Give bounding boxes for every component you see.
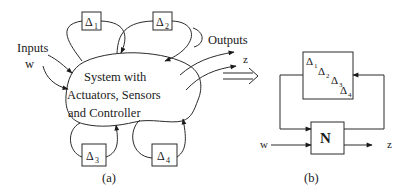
- b-input-w-label: w: [260, 138, 268, 150]
- b-delta4-sub: 4: [348, 91, 352, 99]
- b-output-z-label: z: [387, 138, 392, 150]
- n-to-delta-line: [344, 75, 384, 129]
- delta2-symbol: Δ: [156, 15, 164, 29]
- delta1-block: Δ 1: [82, 12, 101, 31]
- output-arrow-2: [186, 66, 236, 90]
- plant-label: N: [320, 130, 331, 146]
- b-delta2-symbol: Δ: [318, 65, 325, 77]
- transform-arrow: [223, 68, 258, 84]
- outputs-label: Outputs: [208, 33, 248, 47]
- delta1-output-line: [101, 21, 125, 53]
- system-label-line1: System with: [84, 70, 147, 84]
- delta2-right-loop: [193, 28, 202, 47]
- delta3-input-line: [70, 123, 82, 157]
- delta3-symbol: Δ: [86, 149, 94, 163]
- delta3-subscript: 3: [95, 156, 99, 165]
- panel-b-caption: (b): [304, 171, 319, 185]
- delta4-block: Δ 4: [152, 144, 177, 166]
- delta4-subscript: 4: [166, 156, 170, 165]
- output-z-label: z: [243, 53, 248, 65]
- b-delta1-symbol: Δ: [306, 55, 313, 67]
- delta2-block: Δ 2: [153, 12, 172, 31]
- input-arrow-1: [48, 55, 72, 73]
- system-label-line3: and Controller: [68, 106, 141, 120]
- delta3-block: Δ 3: [82, 144, 106, 166]
- b-delta3-symbol: Δ: [331, 74, 338, 86]
- input-w-label: w: [25, 57, 34, 71]
- delta4-input-line: [133, 120, 152, 158]
- delta-to-n-line: [280, 75, 311, 129]
- panel-b: Δ 1 Δ 2 Δ 3 Δ 4 N w z (b): [260, 52, 392, 185]
- delta2-input-line: [117, 21, 153, 53]
- output-arrow-1: [180, 52, 234, 75]
- diagram-canvas: System with Actuators, Sensors and Contr…: [0, 0, 406, 195]
- delta1-subscript: 1: [94, 22, 98, 31]
- delta1-symbol: Δ: [85, 15, 93, 29]
- inputs-label: Inputs: [17, 41, 48, 55]
- delta1-input-line: [67, 21, 82, 61]
- b-delta2-sub: 2: [326, 72, 330, 80]
- delta4-symbol: Δ: [157, 149, 165, 163]
- delta2-subscript: 2: [165, 22, 169, 31]
- panel-a: System with Actuators, Sensors and Contr…: [17, 12, 248, 185]
- b-delta4-symbol: Δ: [340, 84, 347, 96]
- system-label-line2: Actuators, Sensors: [67, 88, 161, 102]
- delta3-output-line: [106, 125, 117, 157]
- input-arrow-2: [43, 66, 68, 89]
- delta4-output-line: [177, 119, 185, 157]
- panel-a-caption: (a): [102, 171, 116, 185]
